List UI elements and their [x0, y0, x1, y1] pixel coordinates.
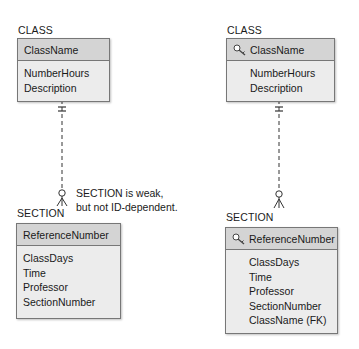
identifier-text: ReferenceNumber	[249, 233, 335, 245]
note-line: SECTION is weak,	[76, 186, 178, 200]
identifier-text: ClassName	[24, 44, 78, 56]
attribute-list: ClassDays Time Professor SectionNumber	[17, 246, 120, 313]
entity-class-left[interactable]: ClassName NumberHours Description	[17, 38, 110, 102]
note-line: but not ID-dependent.	[76, 200, 178, 214]
attribute: NumberHours	[24, 66, 103, 81]
entity-label-section-right: SECTION	[226, 211, 273, 223]
attribute: Time	[23, 266, 114, 281]
attribute-list: NumberHours Description	[18, 61, 109, 99]
entity-section-left[interactable]: ReferenceNumber ClassDays Time Professor…	[16, 223, 121, 319]
attribute-list: NumberHours Description	[227, 61, 334, 99]
attribute: Description	[250, 81, 328, 96]
attribute: NumberHours	[250, 66, 328, 81]
key-icon	[232, 233, 246, 245]
identifier-row: ClassName	[227, 39, 334, 61]
identifier-row: ReferenceNumber	[226, 228, 337, 250]
entity-class-right[interactable]: ClassName NumberHours Description	[226, 38, 335, 102]
entity-label-class-left: CLASS	[18, 24, 53, 36]
attribute: ClassDays	[249, 255, 331, 270]
attribute: ClassDays	[23, 251, 114, 266]
entity-section-right[interactable]: ReferenceNumber ClassDays Time Professor…	[225, 227, 338, 334]
identifier-row: ClassName	[18, 39, 109, 61]
entity-label-class-right: CLASS	[227, 24, 262, 36]
identifier-text: ClassName	[250, 44, 304, 56]
attribute: ClassName (FK)	[249, 313, 331, 328]
key-icon	[233, 44, 247, 56]
attribute: SectionNumber	[249, 299, 331, 314]
identifier-text: ReferenceNumber	[23, 229, 109, 241]
entity-label-section-left: SECTION	[17, 207, 64, 219]
attribute-list: ClassDays Time Professor SectionNumber C…	[226, 250, 337, 332]
attribute: Professor	[23, 280, 114, 295]
identifier-row: ReferenceNumber	[17, 224, 120, 246]
attribute: SectionNumber	[23, 295, 114, 310]
relationship-note: SECTION is weak, but not ID-dependent.	[76, 186, 178, 214]
attribute: Professor	[249, 284, 331, 299]
attribute: Time	[249, 270, 331, 285]
attribute: Description	[24, 81, 103, 96]
